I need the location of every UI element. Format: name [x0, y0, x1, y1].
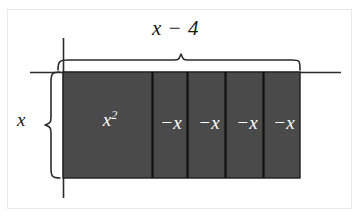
negative-x-tile-label-3: −x — [228, 113, 266, 132]
x-squared-base: x — [103, 109, 111, 130]
left-dimension-label: x — [17, 110, 25, 129]
top-dimension-label: x − 4 — [152, 18, 199, 39]
negative-x-tile-label-1: −x — [152, 113, 190, 132]
algebra-area-model-figure: x − 4 x x2 −x −x −x −x — [0, 0, 363, 223]
negative-x-tile-label-4: −x — [265, 113, 303, 132]
negative-x-tile-label-2: −x — [190, 113, 228, 132]
x-squared-tile-label: x2 — [70, 110, 150, 129]
figure-stage: x − 4 x x2 −x −x −x −x — [0, 0, 363, 223]
x-squared-exponent: 2 — [111, 108, 117, 122]
left-brace — [45, 72, 60, 178]
top-brace — [58, 54, 300, 70]
